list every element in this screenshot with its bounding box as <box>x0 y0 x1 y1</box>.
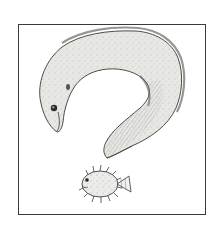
eel-icon <box>40 28 185 158</box>
illustration <box>0 0 224 229</box>
eel-gill-spot <box>66 84 70 90</box>
pufferfish-icon <box>79 165 131 203</box>
pufferfish-eye <box>85 178 89 182</box>
